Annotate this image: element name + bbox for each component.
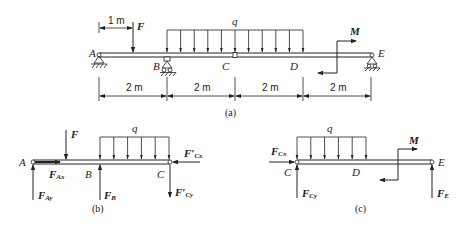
force-f-a: F [133, 20, 145, 52]
force-fax: FAx [35, 162, 65, 181]
moment-m-c: M [380, 134, 420, 180]
hinge-c [233, 53, 237, 58]
distributed-load-q-c: q [297, 122, 366, 159]
force-fcx: FCx [269, 145, 294, 162]
svg-text:M: M [349, 25, 361, 37]
label-d-c: D [351, 166, 360, 178]
svg-text:FCx: FCx [270, 145, 287, 158]
svg-text:FE: FE [436, 187, 449, 200]
panel-b: F q FAx FAy FB [18, 122, 203, 215]
svg-text:M: M [408, 134, 420, 146]
force-fcy: FCy [297, 165, 318, 200]
moment-m-a: M [318, 25, 361, 73]
dimension-1m: 1 m [99, 15, 132, 33]
svg-text:q: q [327, 122, 333, 134]
dimension-line-a: 2 m 2 m 2 m 2 m [99, 77, 371, 101]
svg-text:1 m: 1 m [108, 15, 125, 26]
beam-c [295, 160, 434, 164]
svg-text:F′Cy: F′Cy [174, 186, 194, 199]
svg-text:2 m: 2 m [330, 82, 347, 93]
svg-text:q: q [132, 122, 138, 134]
svg-text:F: F [136, 20, 145, 32]
force-fb: FB [100, 165, 116, 202]
label-b-b: B [85, 168, 92, 180]
beam-a [99, 53, 372, 58]
label-a-b: A [18, 156, 26, 168]
svg-text:FAx: FAx [48, 168, 65, 181]
svg-text:2 m: 2 m [194, 82, 211, 93]
caption-c: (c) [355, 203, 366, 215]
panel-a: F 1 m q [88, 15, 385, 119]
force-f-b: F [66, 128, 79, 159]
beam-diagram: F 1 m q [0, 0, 464, 228]
svg-text:F: F [70, 128, 79, 140]
label-c-b: C [157, 168, 165, 180]
distributed-load-q-b: q [100, 122, 169, 159]
caption-b: (b) [92, 203, 104, 215]
svg-text:2 m: 2 m [262, 82, 279, 93]
panel-c: q FCx FCy FE M C D E (c) [269, 122, 449, 215]
svg-text:F′Cx: F′Cx [183, 147, 203, 160]
label-d: D [289, 60, 298, 72]
svg-text:FCy: FCy [301, 187, 318, 200]
svg-text:FB: FB [103, 189, 116, 202]
roller-support-b [160, 57, 176, 76]
distributed-load-q-a: q [167, 15, 303, 52]
label-e-c: E [437, 156, 445, 168]
force-fe: FE [432, 165, 449, 200]
load-arrows [167, 30, 303, 52]
force-fcx-prime: F′Cx [173, 147, 203, 162]
label-c: C [222, 60, 230, 72]
caption-a: (a) [225, 107, 236, 119]
svg-text:2 m: 2 m [126, 82, 143, 93]
label-e: E [377, 47, 385, 59]
force-fcy-prime: F′Cy [170, 165, 194, 199]
label-a: A [88, 47, 96, 59]
svg-text:FAy: FAy [37, 189, 53, 202]
label-b: B [153, 60, 160, 72]
svg-text:q: q [232, 15, 238, 27]
label-c-c: C [284, 166, 292, 178]
